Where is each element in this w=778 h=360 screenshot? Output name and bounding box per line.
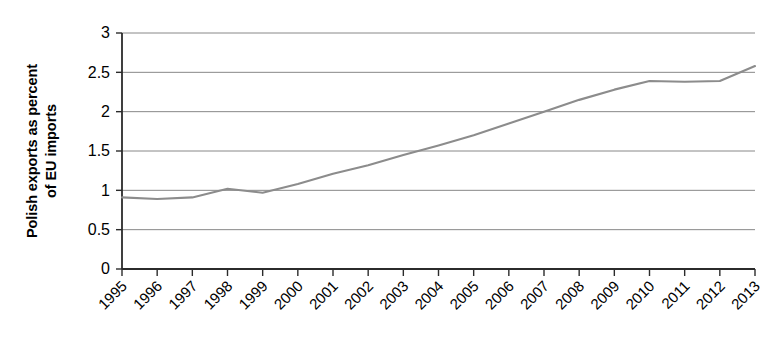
y-axis-tick-labels: 00.511.522.53 xyxy=(88,24,110,277)
data-series-line xyxy=(122,66,755,199)
y-axis-tick-label: 0 xyxy=(101,260,110,277)
x-axis-tick-label: 1997 xyxy=(165,277,201,313)
x-axis-tick-label: 2008 xyxy=(552,277,588,313)
plot-area: 00.511.522.53 19951996199719981999200020… xyxy=(0,0,778,360)
x-axis-tick-label: 1998 xyxy=(200,277,236,313)
x-axis-tick-label: 1999 xyxy=(235,277,271,313)
y-axis-tick-label: 1.5 xyxy=(88,142,110,159)
x-axis-tick-marks xyxy=(122,269,755,276)
x-axis-tick-labels: 1995199619971998199920002001200220032004… xyxy=(95,277,764,313)
x-axis-tick-label: 2004 xyxy=(411,277,447,313)
x-axis-tick-label: 2013 xyxy=(728,277,764,313)
x-axis-tick-label: 2000 xyxy=(270,277,306,313)
x-axis-tick-label: 1995 xyxy=(95,277,131,313)
x-axis-tick-label: 2001 xyxy=(306,277,342,313)
x-axis-tick-label: 2002 xyxy=(341,277,377,313)
y-axis-tick-label: 2.5 xyxy=(88,64,110,81)
x-axis-tick-label: 2006 xyxy=(481,277,517,313)
x-axis-tick-label: 2007 xyxy=(517,277,553,313)
x-axis-tick-label: 2003 xyxy=(376,277,412,313)
x-axis-tick-label: 2010 xyxy=(622,277,658,313)
y-axis-tick-label: 1 xyxy=(101,182,110,199)
line-chart: Polish exports as percent of EU imports … xyxy=(0,0,778,360)
gridlines xyxy=(116,33,755,269)
x-axis-tick-label: 2005 xyxy=(446,277,482,313)
x-axis-tick-label: 2012 xyxy=(692,277,728,313)
x-axis-tick-label: 2009 xyxy=(587,277,623,313)
y-axis-tick-label: 0.5 xyxy=(88,221,110,238)
x-axis-tick-label: 2011 xyxy=(658,277,693,312)
y-axis-tick-label: 3 xyxy=(101,24,110,41)
y-axis-tick-label: 2 xyxy=(101,103,110,120)
x-axis-tick-label: 1996 xyxy=(130,277,166,313)
